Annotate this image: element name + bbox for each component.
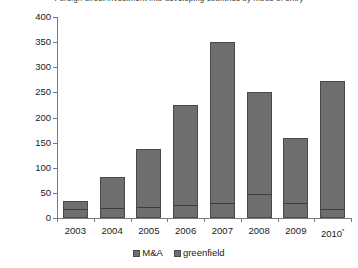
bar-segment-greenfield[interactable]	[136, 149, 161, 207]
bar-segment-mna[interactable]	[210, 203, 235, 218]
x-tick-mark	[351, 218, 352, 222]
legend-label: M&A	[142, 247, 163, 259]
x-tick-mark	[314, 218, 315, 222]
bar-group[interactable]	[136, 149, 161, 218]
legend-swatch-icon	[133, 250, 140, 257]
x-axis-label: 2010*	[314, 225, 351, 240]
y-tick-mark	[53, 42, 57, 43]
y-tick-label: 250	[35, 86, 51, 97]
bar-group[interactable]	[173, 105, 198, 218]
y-tick-label: 400	[35, 11, 51, 22]
bar-segment-greenfield[interactable]	[320, 81, 345, 209]
bar-segment-greenfield[interactable]	[210, 42, 235, 203]
bar-segment-greenfield[interactable]	[173, 105, 198, 205]
bar-segment-greenfield[interactable]	[247, 92, 272, 194]
bar-segment-mna[interactable]	[63, 209, 88, 218]
bar-segment-mna[interactable]	[100, 208, 125, 218]
legend-swatch-icon	[174, 250, 181, 257]
plot-area: 050100150200250300350400	[57, 17, 351, 218]
bar-segment-mna[interactable]	[247, 194, 272, 218]
x-axis-label: 2003	[57, 225, 94, 237]
x-axis-label: 2009	[278, 225, 315, 237]
chart-legend: M&Agreenfield	[0, 247, 358, 259]
bar-group[interactable]	[283, 138, 308, 218]
x-axis-label: 2008	[241, 225, 278, 237]
y-tick-mark	[53, 67, 57, 68]
legend-entry[interactable]: M&A	[133, 247, 163, 259]
x-tick-mark	[204, 218, 205, 222]
bar-segment-mna[interactable]	[283, 203, 308, 218]
bar-segment-mna[interactable]	[320, 209, 345, 218]
y-tick-label: 150	[35, 137, 51, 148]
bar-segment-greenfield[interactable]	[63, 201, 88, 209]
y-tick-label: 50	[40, 187, 51, 198]
x-axis-label: 2007	[204, 225, 241, 237]
y-tick-mark	[53, 92, 57, 93]
y-tick-label: 350	[35, 36, 51, 47]
x-tick-mark	[57, 218, 58, 222]
legend-label: greenfield	[183, 247, 225, 259]
x-axis-labels: 20032004200520062007200820092010*	[57, 225, 352, 239]
chart-title: Foreign direct investment into developin…	[0, 0, 358, 3]
legend-entry[interactable]: greenfield	[174, 247, 225, 259]
bar-group[interactable]	[210, 42, 235, 218]
x-tick-mark	[167, 218, 168, 222]
bar-group[interactable]	[63, 201, 88, 218]
bar-segment-greenfield[interactable]	[100, 177, 125, 208]
x-axis-label: 2005	[131, 225, 168, 237]
y-tick-label: 100	[35, 162, 51, 173]
y-tick-label: 200	[35, 112, 51, 123]
x-axis-label: 2006	[167, 225, 204, 237]
x-tick-mark	[94, 218, 95, 222]
x-axis-label: 2004	[94, 225, 131, 237]
bar-segment-mna[interactable]	[136, 207, 161, 218]
y-tick-mark	[53, 17, 57, 18]
y-tick-mark	[53, 168, 57, 169]
y-tick-mark	[53, 193, 57, 194]
x-tick-mark	[278, 218, 279, 222]
y-tick-label: 0	[46, 212, 51, 223]
x-tick-mark	[241, 218, 242, 222]
bar-group[interactable]	[247, 92, 272, 218]
bar-segment-greenfield[interactable]	[283, 138, 308, 203]
bar-group[interactable]	[100, 177, 125, 218]
y-tick-label: 300	[35, 61, 51, 72]
y-tick-mark	[53, 143, 57, 144]
bar-segment-mna[interactable]	[173, 205, 198, 218]
x-tick-mark	[131, 218, 132, 222]
bar-group[interactable]	[320, 81, 345, 218]
chart-figure: Foreign direct investment into developin…	[0, 0, 358, 268]
y-tick-mark	[53, 118, 57, 119]
